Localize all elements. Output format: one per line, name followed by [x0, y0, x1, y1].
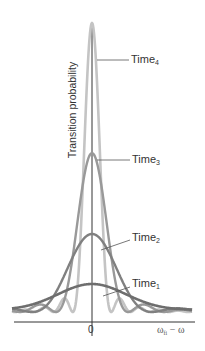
curves-group — [12, 23, 192, 312]
time4-label-sub: 4 — [155, 59, 159, 66]
time3-label-base: Time — [132, 153, 156, 165]
transition-probability-chart — [0, 0, 205, 351]
y-axis-label: Transition probability — [66, 62, 78, 159]
x-tick-zero: 0 — [88, 324, 94, 335]
time1-curve — [12, 284, 192, 310]
time1-label: Time1 — [132, 278, 160, 290]
time4-curve — [12, 23, 192, 312]
time2-label-base: Time — [132, 231, 156, 243]
time2-label-sub: 2 — [156, 237, 160, 244]
time1-label-sub: 1 — [156, 283, 160, 290]
x-axis-label-rest: − ω — [167, 324, 184, 335]
time3-label: Time3 — [132, 154, 160, 166]
time4-label: Time4 — [131, 54, 159, 66]
time3-label-sub: 3 — [156, 159, 160, 166]
x-axis-label: ωfi − ω — [157, 324, 185, 336]
time4-label-base: Time — [131, 53, 155, 65]
time2-label: Time2 — [132, 232, 160, 244]
time1-label-base: Time — [132, 277, 156, 289]
time2-curve — [12, 234, 192, 312]
x-axis-label-omega: ω — [157, 324, 164, 335]
